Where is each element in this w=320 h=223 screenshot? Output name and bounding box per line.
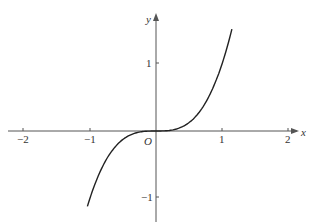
x-tick-label: 1 [219, 134, 225, 145]
y-tick-label: −1 [141, 192, 153, 203]
origin-label: O [144, 136, 152, 147]
curve [87, 29, 232, 206]
x-tick-label: −1 [84, 134, 96, 145]
x-tick-label: −2 [17, 134, 29, 145]
x-axis-arrow-icon [291, 128, 299, 134]
x-axis-label: x [301, 127, 306, 138]
y-axis-arrow-icon [153, 13, 159, 21]
cubic-plot [0, 0, 320, 223]
y-axis-label: y [146, 14, 151, 25]
y-tick-label: 1 [146, 58, 152, 69]
x-tick-label: 2 [285, 134, 291, 145]
